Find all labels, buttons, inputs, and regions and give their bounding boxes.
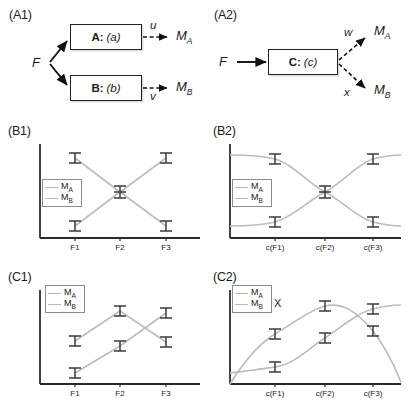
a1-box-A-param: (a) bbox=[107, 31, 121, 43]
a2-box-C-name: C: bbox=[289, 56, 301, 68]
c1-chart-graphics bbox=[0, 268, 205, 414]
a2-output-MB: MB bbox=[374, 82, 391, 100]
b1-legend-row-MB: MB bbox=[45, 193, 77, 204]
a1-arrow-graphics bbox=[0, 0, 205, 122]
panel-a1: (A1) F A: (a) B: (b) u v MA MB bbox=[0, 0, 205, 122]
c2-legend-label-MB: MB bbox=[251, 299, 263, 310]
b2-legend-label-MB: MB bbox=[251, 193, 263, 204]
a1-input-label: F bbox=[32, 55, 40, 70]
a2-input-label: F bbox=[219, 54, 227, 69]
b2-legend-row-MB: MB bbox=[235, 193, 267, 204]
b1-chart-graphics bbox=[0, 122, 205, 268]
c2-extra-legend-mark: X bbox=[274, 297, 281, 309]
a1-box-B: B: (b) bbox=[70, 75, 142, 101]
b2-tick-2: c(F3) bbox=[364, 243, 383, 252]
a2-output-MA: MA bbox=[374, 23, 391, 41]
b2-legend: MA MB bbox=[232, 179, 272, 207]
a1-output-MA: MA bbox=[176, 28, 193, 46]
c1-legend-row-MB: MB bbox=[48, 299, 80, 310]
c1-legend-label-MB: MB bbox=[64, 299, 76, 310]
b2-tick-0: c(F1) bbox=[266, 243, 285, 252]
panel-c1: (C1) bbox=[0, 268, 205, 414]
panel-c2: (C2) bbox=[205, 268, 409, 414]
a1-output-MB: MB bbox=[176, 79, 193, 97]
panel-a2: (A2) F C: (c) w x MA MB bbox=[205, 0, 409, 122]
c2-tick-1: c(F2) bbox=[316, 389, 335, 398]
b1-legend-label-MB: MB bbox=[61, 193, 73, 204]
panel-b1-label: (B1) bbox=[8, 124, 31, 138]
a2-rate-x: x bbox=[344, 86, 350, 98]
b1-legend-swatch-MA bbox=[45, 187, 58, 188]
a1-rate-u: u bbox=[150, 19, 156, 31]
a1-box-B-param: (b) bbox=[107, 82, 121, 94]
b1-tick-2: F3 bbox=[161, 243, 170, 252]
c1-legend: MA MB bbox=[45, 285, 85, 313]
panel-c2-label: (C2) bbox=[213, 270, 237, 284]
b1-legend-swatch-MB bbox=[45, 198, 58, 199]
c2-legend-row-MB: MB bbox=[235, 299, 267, 310]
b2-tick-1: c(F2) bbox=[316, 243, 335, 252]
c1-tick-0: F1 bbox=[70, 389, 79, 398]
a1-rate-v: v bbox=[150, 90, 156, 102]
panel-b2: (B2) bbox=[205, 122, 409, 268]
c2-legend: MA MB bbox=[232, 285, 272, 313]
panel-b2-label: (B2) bbox=[213, 124, 236, 138]
a1-box-A-name: A: bbox=[91, 31, 103, 43]
c2-tick-0: c(F1) bbox=[266, 389, 285, 398]
b2-legend-swatch-MA bbox=[235, 187, 248, 188]
panel-b1: (B1) bbox=[0, 122, 205, 268]
c1-legend-swatch-MB bbox=[48, 304, 61, 305]
a1-box-B-name: B: bbox=[91, 82, 103, 94]
c1-tick-2: F3 bbox=[161, 389, 170, 398]
c2-tick-2: c(F3) bbox=[364, 389, 383, 398]
b2-legend-swatch-MB bbox=[235, 198, 248, 199]
c2-legend-swatch-MA bbox=[235, 293, 248, 294]
a1-box-A: A: (a) bbox=[70, 24, 142, 50]
b1-tick-0: F1 bbox=[70, 243, 79, 252]
b1-legend: MA MB bbox=[42, 179, 82, 207]
c2-legend-swatch-MB bbox=[235, 304, 248, 305]
c1-legend-swatch-MA bbox=[48, 293, 61, 294]
a2-box-C-param: (c) bbox=[304, 56, 317, 68]
panel-c1-label: (C1) bbox=[8, 270, 32, 284]
a2-box-C: C: (c) bbox=[268, 49, 338, 75]
a2-rate-w: w bbox=[344, 26, 352, 38]
c1-tick-1: F2 bbox=[115, 389, 124, 398]
b1-tick-1: F2 bbox=[115, 243, 124, 252]
